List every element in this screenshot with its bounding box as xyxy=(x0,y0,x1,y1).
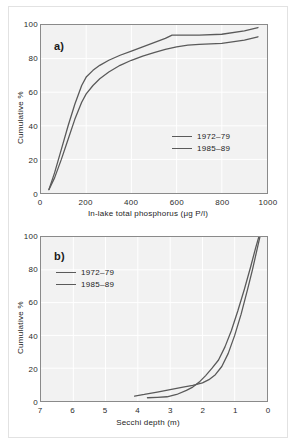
x-tick-a-400: 400 xyxy=(111,198,151,207)
series-1985-89-a xyxy=(49,37,258,190)
x-axis-title-a: In-lake total phosphorus (μg P/l) xyxy=(0,209,296,218)
x-tick-a-800: 800 xyxy=(202,198,242,207)
x-tick-b-0: 0 xyxy=(248,406,288,415)
legend-a: 1972–79 1985–89 xyxy=(172,130,230,154)
gridlines-a xyxy=(41,25,267,193)
x-tick-a-1000: 1000 xyxy=(248,198,288,207)
series-1972-79-a xyxy=(49,28,258,190)
panel-a: a) 0 20 40 60 80 100 0 200 400 600 800 1… xyxy=(0,8,296,216)
legend-b: 1972–79 1985–89 xyxy=(56,266,114,290)
legend-entry-1972-79-a: 1972–79 xyxy=(172,130,230,142)
x-axis-ticks-b: 7 6 5 4 3 2 1 0 xyxy=(40,406,268,418)
legend-entry-1985-89-a: 1985–89 xyxy=(172,142,230,154)
panel-label-b: b) xyxy=(54,250,65,262)
x-axis-title-b: Secchi depth (m) xyxy=(0,418,296,427)
figure-container: a) 0 20 40 60 80 100 0 200 400 600 800 1… xyxy=(0,0,296,444)
series-lines-b xyxy=(135,237,260,398)
y-tick-a-80: 80 xyxy=(2,54,38,63)
gridlines-b xyxy=(41,237,267,401)
y-tick-b-20: 20 xyxy=(2,364,38,373)
y-tick-a-100: 100 xyxy=(2,20,38,29)
y-axis-title-b: Cumulative % xyxy=(16,301,25,354)
legend-entry-1985-89-b: 1985–89 xyxy=(56,278,114,290)
plot-area-b xyxy=(40,236,268,402)
legend-swatch-line-icon xyxy=(172,148,192,149)
plot-svg-b xyxy=(41,237,267,401)
y-tick-a-20: 20 xyxy=(2,156,38,165)
plot-svg-a xyxy=(41,25,267,193)
y-tick-b-80: 80 xyxy=(2,265,38,274)
plot-area-a xyxy=(40,24,268,194)
legend-swatch-line-icon xyxy=(56,272,76,273)
y-axis-title-a: Cumulative % xyxy=(16,91,25,144)
x-tick-a-600: 600 xyxy=(157,198,197,207)
panel-b: b) 0 20 40 60 80 100 7 6 5 4 3 2 1 0 Sec… xyxy=(0,222,296,436)
series-1972-79-b xyxy=(135,237,260,396)
series-lines-a xyxy=(49,28,258,190)
x-tick-a-200: 200 xyxy=(66,198,106,207)
legend-label-1985-89: 1985–89 xyxy=(81,280,114,289)
panel-label-a: a) xyxy=(54,40,64,52)
x-tick-a-0: 0 xyxy=(20,198,60,207)
series-1985-89-b xyxy=(147,237,258,398)
legend-label-1985-89: 1985–89 xyxy=(197,144,230,153)
legend-label-1972-79: 1972–79 xyxy=(197,132,230,141)
y-tick-b-100: 100 xyxy=(2,232,38,241)
legend-label-1972-79: 1972–79 xyxy=(81,268,114,277)
legend-swatch-line-icon xyxy=(56,284,76,285)
legend-entry-1972-79-b: 1972–79 xyxy=(56,266,114,278)
legend-swatch-line-icon xyxy=(172,136,192,137)
